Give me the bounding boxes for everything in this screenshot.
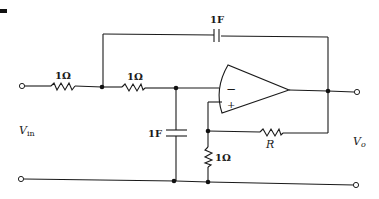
opamp-minus-sign: − bbox=[226, 82, 236, 96]
resistor-input-symbol bbox=[51, 83, 75, 90]
opamp-plus-sign: + bbox=[227, 99, 235, 110]
label-c-feedback: 1F bbox=[210, 14, 224, 25]
label-vin: Vin bbox=[19, 124, 35, 138]
junction-node-b bbox=[174, 86, 179, 91]
capacitor-feedback-symbol bbox=[214, 29, 219, 42]
label-r-input: 1Ω bbox=[55, 70, 71, 81]
junction-node-output bbox=[326, 89, 331, 94]
circuit-diagram: − + 1Ω 1Ω 1F 1F R 1Ω Vin Vo bbox=[0, 0, 379, 199]
junction-node-a bbox=[100, 85, 105, 90]
label-r-feedback: R bbox=[265, 138, 274, 151]
label-vo: Vo bbox=[353, 135, 366, 149]
terminal-vin-positive bbox=[19, 83, 24, 88]
resistor-ground-symbol bbox=[205, 147, 212, 167]
capacitor-shunt-symbol bbox=[166, 130, 187, 136]
terminal-vin-ground bbox=[18, 176, 23, 181]
junction-node-ground-left bbox=[172, 179, 177, 184]
page-marker bbox=[0, 9, 7, 13]
terminal-vo-positive bbox=[354, 89, 359, 94]
resistor-series-symbol bbox=[122, 84, 145, 91]
label-r-ground: 1Ω bbox=[215, 152, 231, 163]
junction-node-c bbox=[206, 129, 211, 134]
junction-node-ground-right bbox=[206, 180, 211, 185]
label-r-series: 1Ω bbox=[127, 71, 143, 82]
wires bbox=[24, 34, 354, 185]
terminal-vo-ground bbox=[353, 182, 358, 187]
label-c-shunt: 1F bbox=[148, 128, 162, 139]
resistor-feedback-symbol bbox=[260, 129, 283, 136]
